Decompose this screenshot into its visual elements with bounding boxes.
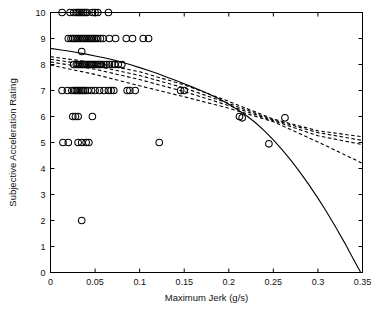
x-tick-label: 0.15 — [175, 277, 193, 287]
regression-dashed-2 — [51, 59, 363, 140]
x-tick-label: 0.25 — [265, 277, 283, 287]
data-point-marker — [89, 113, 96, 120]
y-tick-label: 2 — [40, 216, 45, 226]
x-tick-label: 0.05 — [86, 277, 104, 287]
y-tick-label: 1 — [40, 242, 45, 252]
y-tick-label: 7 — [40, 86, 45, 96]
x-tick-label: 0.2 — [223, 277, 236, 287]
data-point-marker — [266, 141, 273, 148]
y-tick-label: 0 — [40, 268, 45, 278]
x-axis-title: Maximum Jerk (g/s) — [165, 292, 248, 303]
y-tick-label: 10 — [35, 8, 45, 18]
y-axis-title: Subjective Acceleration Rating — [7, 78, 18, 206]
regression-dashed-1 — [51, 57, 363, 137]
data-point-marker — [112, 35, 119, 42]
x-tick-label: 0 — [48, 277, 53, 287]
y-tick-label: 4 — [40, 164, 45, 174]
x-tick-label: 0.35 — [354, 277, 372, 287]
x-tick-label: 0.3 — [312, 277, 325, 287]
regression-dashed-4 — [51, 65, 363, 163]
y-tick-label: 9 — [40, 34, 45, 44]
chart-canvas: 00.050.10.150.20.250.30.35012345678910Ma… — [0, 0, 383, 315]
scatter-plot-figure: 00.050.10.150.20.250.30.35012345678910Ma… — [0, 0, 383, 315]
y-tick-label: 6 — [40, 112, 45, 122]
x-tick-label: 0.1 — [133, 277, 146, 287]
regression-dashed-3 — [51, 62, 363, 145]
model-fit-solid — [51, 48, 361, 272]
y-tick-label: 5 — [40, 138, 45, 148]
data-point-marker — [156, 139, 163, 146]
data-point-marker — [106, 35, 113, 42]
y-tick-label: 3 — [40, 190, 45, 200]
y-tick-label: 8 — [40, 60, 45, 70]
data-point-marker — [123, 35, 130, 42]
data-point-marker — [282, 115, 289, 122]
data-point-marker — [129, 35, 136, 42]
data-point-marker — [78, 217, 85, 224]
plot-frame — [51, 13, 363, 273]
